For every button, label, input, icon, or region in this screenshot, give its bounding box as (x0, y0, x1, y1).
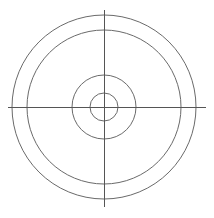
concentric-circles-diagram (0, 0, 214, 218)
